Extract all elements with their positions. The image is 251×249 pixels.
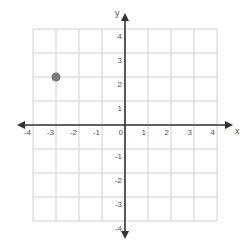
y-axis-label: y [115, 8, 120, 18]
tick-labels: -4-3-2-1012344321-1-2-3-4 [24, 32, 216, 233]
y-tick-label: -3 [115, 200, 123, 209]
x-tick-label: 4 [211, 128, 216, 137]
x-tick-label: -1 [93, 128, 101, 137]
y-tick-label: 4 [118, 32, 123, 41]
x-tick-label: -4 [24, 128, 32, 137]
x-axis-right-arrow-icon [225, 121, 233, 129]
x-tick-label: 2 [165, 128, 170, 137]
y-tick-label: -4 [115, 224, 123, 233]
y-axis-up-arrow-icon [121, 13, 129, 21]
y-tick-label: -1 [115, 152, 123, 161]
y-tick-label: 3 [118, 56, 123, 65]
coordinate-plane: x y -4-3-2-1012344321-1-2-3-4 [0, 0, 251, 249]
axes: x y [17, 8, 240, 239]
data-point [52, 73, 61, 82]
y-tick-label: 2 [118, 80, 123, 89]
y-axis-down-arrow-icon [121, 231, 129, 239]
y-tick-label: 1 [118, 104, 123, 113]
x-tick-label: -2 [70, 128, 78, 137]
x-axis-label: x [235, 126, 240, 136]
y-tick-label: -2 [115, 176, 123, 185]
x-tick-label: 3 [188, 128, 193, 137]
data-points [52, 73, 61, 82]
x-tick-label: -3 [47, 128, 55, 137]
x-tick-label: 0 [119, 128, 124, 137]
x-tick-label: 1 [142, 128, 147, 137]
